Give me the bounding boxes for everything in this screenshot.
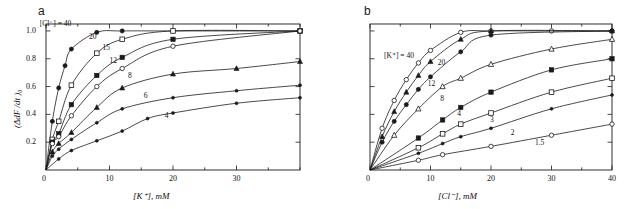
curve-label-8: 8 xyxy=(128,71,132,80)
curve-8 xyxy=(46,59,303,170)
figure-container: a (ΔdF /dt )₀ [K⁺], mM 01020300.20.40.60… xyxy=(0,0,624,209)
x-tick-label: 30 xyxy=(548,174,556,183)
y-tick-label: 1.0 xyxy=(26,26,36,35)
curve-label-8: 8 xyxy=(440,94,444,103)
curve-20 xyxy=(370,28,615,170)
x-tick-label: 30 xyxy=(233,174,241,183)
curve-label-12: 12 xyxy=(110,56,118,65)
y-tick-label: 0.2 xyxy=(26,137,36,146)
panel-a-plot xyxy=(0,0,312,209)
curve-label-40: [Cl⁻] = 40 xyxy=(40,19,72,28)
curve-12 xyxy=(46,29,302,170)
curve-label-2: 2 xyxy=(511,128,515,137)
x-tick-label: 20 xyxy=(487,174,495,183)
x-tick-label: 10 xyxy=(106,174,114,183)
curve-label-12: 12 xyxy=(428,79,436,88)
panel-b: b [Cl⁻], mM 010203040[K⁺] = 40201284321.… xyxy=(312,0,624,209)
curve-label-40: [K⁺] = 40 xyxy=(384,51,414,60)
curve-label-20: 20 xyxy=(438,58,446,67)
y-tick-label: 0.8 xyxy=(26,54,36,63)
curve-label-1.5: 1.5 xyxy=(535,138,544,147)
x-tick-label: 0 xyxy=(42,174,46,183)
curve-4 xyxy=(46,96,302,170)
y-tick-label: 0.4 xyxy=(26,109,36,118)
curve-label-4: 4 xyxy=(457,109,461,118)
y-tick-label: 0.6 xyxy=(26,82,36,91)
x-tick-label: 40 xyxy=(608,174,616,183)
curve-label-4: 4 xyxy=(165,111,169,120)
curve-label-3: 3 xyxy=(490,115,494,124)
curve-label-20: 20 xyxy=(89,32,97,41)
panel-a: a (ΔdF /dt )₀ [K⁺], mM 01020300.20.40.60… xyxy=(0,0,312,209)
x-tick-label: 20 xyxy=(169,174,177,183)
x-tick-label: 0 xyxy=(366,174,370,183)
curve-6 xyxy=(46,84,302,170)
panel-b-plot xyxy=(312,0,624,209)
curve-label-15: 15 xyxy=(103,43,111,52)
curve-label-6: 6 xyxy=(144,91,148,100)
x-tick-label: 10 xyxy=(427,174,435,183)
